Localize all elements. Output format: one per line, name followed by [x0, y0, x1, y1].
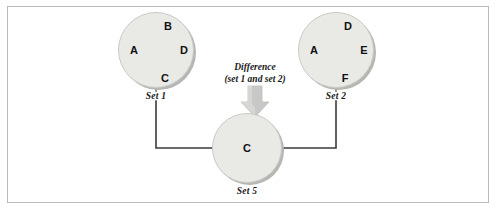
set5-element-c: C: [243, 143, 251, 154]
set2-element-a: A: [310, 45, 318, 56]
connector-set1-to-result: [156, 101, 214, 148]
set-difference-diagram: B A D C Set 1 D A E F Set 2 Difference (…: [0, 0, 497, 211]
operation-operands: (set 1 and set 2): [224, 74, 285, 86]
connector-set2-to-result: [280, 101, 336, 148]
set1-element-c: C: [161, 73, 169, 84]
operation-name: Difference: [224, 62, 285, 74]
set1-element-b: B: [164, 21, 172, 32]
set5-caption: Set 5: [237, 186, 257, 196]
set2-caption: Set 2: [326, 91, 346, 101]
set1-caption: Set 1: [146, 91, 166, 101]
set2-element-e: E: [360, 45, 367, 56]
set1-element-a: A: [130, 45, 138, 56]
set2-element-f: F: [342, 73, 349, 84]
set2-element-d: D: [344, 21, 352, 32]
set1-element-d: D: [180, 45, 188, 56]
operation-label: Difference (set 1 and set 2): [224, 62, 285, 85]
